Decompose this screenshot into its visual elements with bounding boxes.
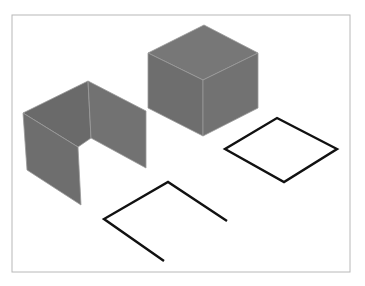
illustration-canvas [0,0,365,286]
open-box-back-right-wall [88,81,146,168]
open-box-3d [23,81,146,205]
cube-3d [148,25,258,136]
open-square-outline [104,182,227,261]
closed-diamond-outline [225,118,337,182]
